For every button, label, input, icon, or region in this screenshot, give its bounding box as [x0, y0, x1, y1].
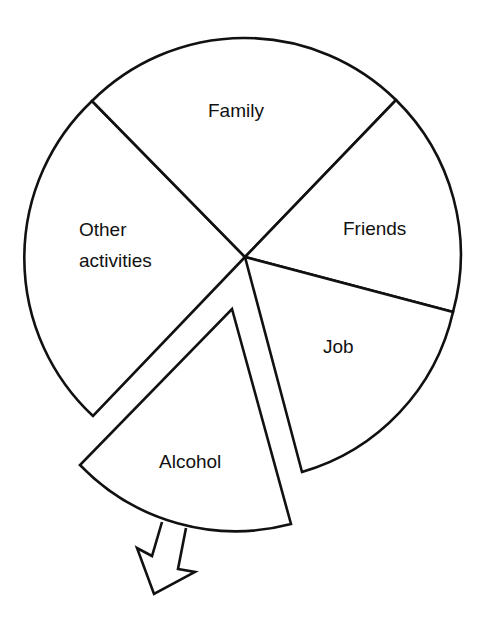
label-family: Family — [208, 101, 264, 120]
label-job: Job — [323, 337, 354, 356]
label-other-line2: activities — [79, 251, 152, 270]
pie-diagram: Family Friends Job Alcohol Other activit… — [0, 0, 481, 631]
label-alcohol: Alcohol — [159, 452, 221, 471]
down-left-arrow-icon — [137, 522, 195, 594]
label-other-line1: Other — [79, 220, 127, 239]
label-friends: Friends — [343, 219, 406, 238]
